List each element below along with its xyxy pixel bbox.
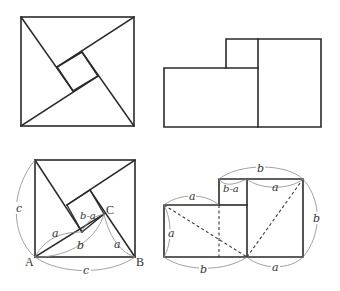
label-a-right: a [114,238,121,251]
dashed-diagonal-left [164,205,247,257]
label-right-b: b [313,212,320,225]
label-top-right-a: a [272,181,279,194]
outline [164,39,321,127]
label-left-c: c [16,202,22,215]
label-top-b: b [257,162,264,175]
outer-square [21,17,134,126]
point-B: B [136,255,144,269]
point-A: A [25,255,34,269]
point-C: C [106,203,114,217]
label-bottom-b: b [200,263,207,276]
label-left-side-a: a [168,227,175,240]
label-b-minus-a: b-a [80,210,96,221]
panel-top-left-square [21,17,134,126]
label-bottom-c: c [83,264,89,277]
line-br-diag [90,190,135,257]
label-a-inner: a [52,227,59,240]
label-left-top-a: a [189,190,196,203]
line-tl-diag [35,160,82,232]
panel-top-right-squares [164,39,321,127]
panel-bottom-left-labeled: c c a b a b-a A B C [15,160,144,277]
inner-square [57,52,98,91]
panel-bottom-right-labeled: b b-a a a a b a b [164,162,321,276]
label-bottom-a: a [272,261,279,274]
label-b-inner: b [77,239,84,252]
pythagorean-dissection-figure: c c a b a b-a A B C b b-a a a a [0,0,340,291]
label-b-minus-a: b-a [223,183,239,194]
